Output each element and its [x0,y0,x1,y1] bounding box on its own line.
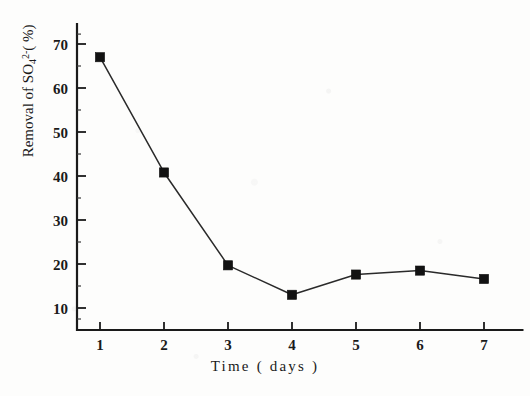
chart-figure: 10203040506070 1234567 Time ( days ) Rem… [0,0,530,396]
ticks-group [77,34,484,330]
x-tick-label: 3 [224,337,232,353]
x-tick-labels: 1234567 [96,337,488,353]
data-point-marker [351,270,360,279]
axes-group [77,24,522,330]
data-point-marker [95,53,104,62]
data-series-group [95,53,488,300]
y-axis-title-prefix: Removal of SO [20,64,36,157]
x-axis-title: Time ( days ) [0,358,530,375]
x-tick-label: 2 [160,337,168,353]
y-tick-label: 30 [53,213,68,229]
y-tick-label: 40 [53,169,68,185]
x-tick-label: 4 [288,337,296,353]
x-tick-label: 1 [96,337,104,353]
y-tick-label: 70 [53,37,68,53]
y-tick-label: 60 [53,81,68,97]
y-tick-labels: 10203040506070 [53,37,68,317]
data-point-marker [159,168,168,177]
x-tick-label: 7 [480,337,488,353]
x-tick-label: 6 [416,337,424,353]
y-tick-label: 50 [53,125,68,141]
data-point-marker [479,274,488,283]
y-tick-label: 20 [53,257,68,273]
data-point-marker [287,290,296,299]
y-axis-title-subscript: 4 [27,59,38,64]
y-axis-title: Removal of SO42-( %) [20,0,38,206]
data-point-marker [223,261,232,270]
y-axis-title-superscript: 2- [20,51,31,59]
y-axis-title-suffix: ( %) [20,24,36,50]
y-tick-label: 10 [53,301,68,317]
line-chart-plot: 10203040506070 1234567 [0,0,530,396]
data-point-marker [415,266,424,275]
x-tick-label: 5 [352,337,360,353]
data-line [100,57,484,295]
